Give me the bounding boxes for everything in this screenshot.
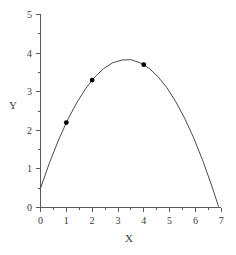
data-point-marker (64, 120, 69, 125)
x-axis-title: X (125, 232, 133, 244)
x-tick-label-2: 2 (90, 215, 95, 226)
y-tick-label-3: 3 (27, 86, 32, 97)
x-tick-label-5: 5 (167, 215, 172, 226)
x-tick-label-6: 6 (193, 215, 198, 226)
y-axis-minor-ticks (38, 34, 41, 188)
parabola-plot: 0 1 2 3 4 5 0 1 2 3 4 5 6 7 Y X (0, 0, 236, 255)
x-tick-label-4: 4 (141, 215, 146, 226)
y-axis-title: Y (9, 99, 17, 111)
y-axis-tick-labels: 0 1 2 3 4 5 (27, 9, 32, 213)
data-point-marker (141, 62, 146, 67)
y-tick-label-1: 1 (27, 163, 32, 174)
y-tick-label-2: 2 (27, 125, 32, 136)
x-tick-label-7: 7 (219, 215, 224, 226)
y-tick-label-0: 0 (27, 202, 32, 213)
x-tick-label-0: 0 (38, 215, 43, 226)
x-axis-tick-labels: 0 1 2 3 4 5 6 7 (38, 215, 224, 226)
data-point-marker (90, 78, 95, 83)
parabola-curve (41, 60, 219, 207)
y-tick-label-5: 5 (27, 9, 32, 20)
data-point-markers (64, 62, 146, 125)
chart-screenshot: 0 1 2 3 4 5 0 1 2 3 4 5 6 7 Y X (0, 0, 236, 255)
y-tick-label-4: 4 (27, 48, 32, 59)
x-tick-label-3: 3 (116, 215, 121, 226)
x-tick-label-1: 1 (64, 215, 69, 226)
